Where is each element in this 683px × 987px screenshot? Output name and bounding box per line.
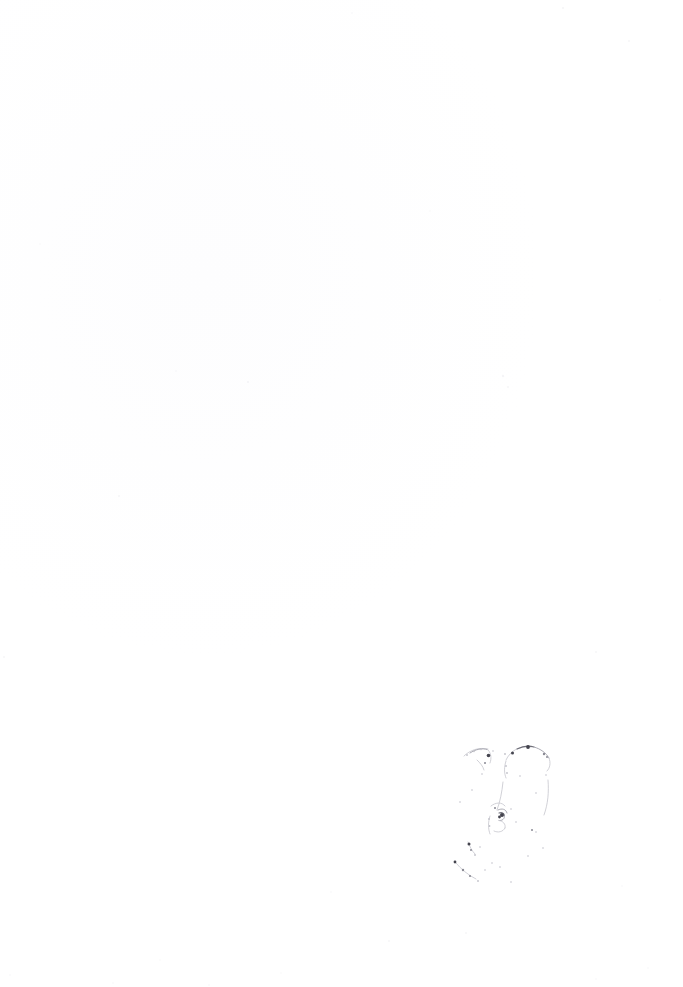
annotation-stroke-left-arc [464, 748, 494, 774]
annotation-description: Very faint pencil or ink handwriting in … [0, 0, 1, 1]
annotation-stroke-center-glyph [488, 803, 537, 834]
scanner-speckles [0, 0, 683, 987]
paper-tone [0, 0, 683, 987]
faded-handwritten-mark [448, 730, 563, 890]
scanned-page: Blank scanned sheet with no printed text… [0, 0, 683, 987]
annotation-stroke-lower-left-trail [454, 842, 544, 883]
annotation-stroke-right-arc [504, 745, 550, 778]
page-content-summary: Blank scanned sheet with no printed text… [0, 0, 1, 1]
